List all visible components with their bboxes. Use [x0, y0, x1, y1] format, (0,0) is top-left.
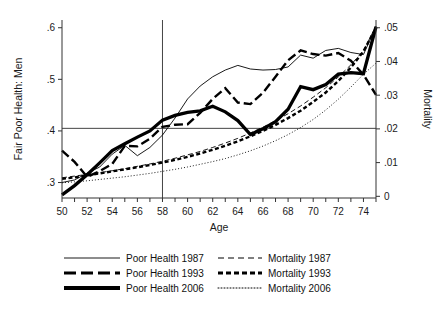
y2-tick-label: .03	[384, 90, 398, 101]
x-tick-label: 58	[157, 206, 169, 217]
legend-label-poor-health-1993: Poor Health 1993	[126, 268, 204, 279]
y-axis-title: Fair Poor Health: Men	[12, 57, 24, 160]
y2-tick-label: 0	[384, 191, 390, 202]
y-tick-label: .4	[47, 125, 56, 136]
x-tick-label: 66	[257, 206, 269, 217]
legend-label-mortality-2006: Mortality 2006	[268, 283, 331, 294]
x-tick-label: 70	[308, 206, 320, 217]
x-tick-label: 50	[56, 206, 68, 217]
y-tick-label: .3	[47, 177, 56, 188]
x-axis-title: Age	[210, 221, 229, 233]
y2-tick-label: .04	[384, 56, 398, 67]
y-tick-label: .5	[47, 74, 56, 85]
x-tick-label: 74	[358, 206, 370, 217]
y-tick-label: .6	[47, 22, 56, 33]
legend-label-mortality-1987: Mortality 1987	[268, 253, 331, 264]
dual-axis-line-chart: .3.4.5.60.01.02.03.04.055052545658606264…	[0, 0, 438, 309]
y2-tick-label: .02	[384, 123, 398, 134]
y2-tick-label: .01	[384, 157, 398, 168]
chart-figure: .3.4.5.60.01.02.03.04.055052545658606264…	[0, 0, 438, 309]
x-tick-label: 62	[207, 206, 219, 217]
x-tick-label: 54	[107, 206, 119, 217]
x-tick-label: 60	[182, 206, 194, 217]
x-tick-label: 68	[283, 206, 295, 217]
x-tick-label: 52	[82, 206, 94, 217]
y2-tick-label: .05	[384, 22, 398, 33]
x-tick-label: 72	[333, 206, 345, 217]
x-tick-label: 56	[132, 206, 144, 217]
legend-label-poor-health-2006: Poor Health 2006	[126, 283, 204, 294]
legend-label-poor-health-1987: Poor Health 1987	[126, 253, 204, 264]
y2-axis-title: Mortality	[422, 89, 434, 129]
legend-label-mortality-1993: Mortality 1993	[268, 268, 331, 279]
x-tick-label: 64	[232, 206, 244, 217]
